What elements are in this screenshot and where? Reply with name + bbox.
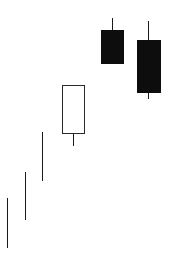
candle-6-body-bearish: [138, 41, 161, 93]
candle-4-body-bullish: [63, 86, 85, 134]
candle-5-body-bearish: [102, 31, 124, 64]
candlestick-chart-canvas: [0, 0, 173, 267]
candlestick-chart: [0, 0, 173, 267]
